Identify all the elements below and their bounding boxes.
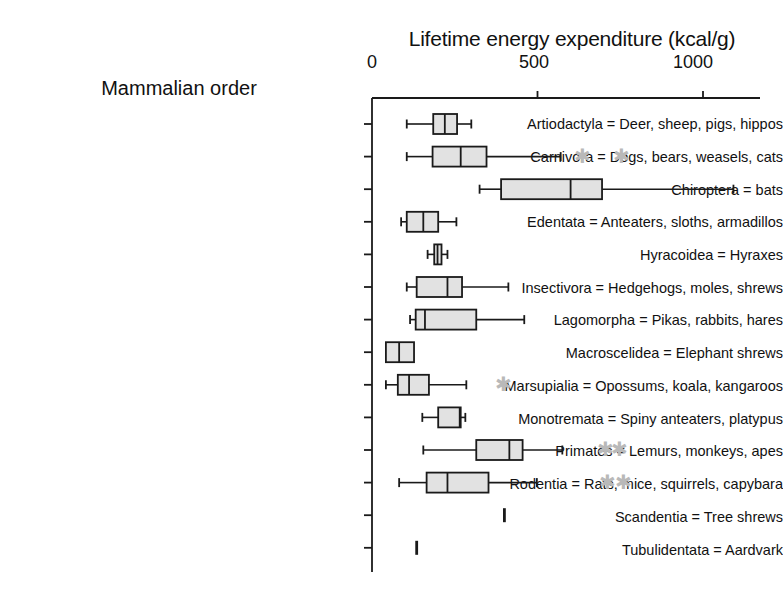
- box-iqr: [398, 375, 429, 395]
- box-plot-item: ✱✱: [399, 471, 632, 493]
- box-iqr: [501, 179, 602, 199]
- box-plot-item: ✱: [386, 373, 512, 395]
- outlier-marker: ✱: [599, 471, 616, 493]
- box-iqr: [438, 407, 461, 427]
- box-plot-item: [401, 212, 456, 232]
- box-plot-item: [407, 114, 472, 134]
- box-plot-item: [480, 179, 734, 199]
- box-iqr: [433, 147, 487, 167]
- box-plot-item: ✱✱: [423, 438, 628, 460]
- box-plot-item: [415, 541, 418, 555]
- box-plot-item: [386, 342, 414, 362]
- outlier-marker: ✱: [495, 373, 512, 395]
- box-iqr: [417, 277, 462, 297]
- box-iqr: [476, 440, 522, 460]
- box-iqr: [427, 473, 489, 493]
- box-plot-figure: Lifetime energy expenditure (kcal/g) Mam…: [0, 0, 783, 603]
- outlier-marker: ✱: [615, 471, 632, 493]
- box-plot-item: [407, 277, 509, 297]
- plot-area: ✱✱✱✱✱✱✱: [0, 0, 783, 603]
- box-plot-item: [422, 407, 465, 427]
- box-plot-item: [428, 244, 448, 264]
- box-plot-item: [503, 508, 506, 522]
- outlier-marker: ✱: [611, 438, 628, 460]
- box-plot-item: [410, 310, 524, 330]
- outlier-marker: ✱: [574, 145, 591, 167]
- box-plot-item: ✱✱: [407, 145, 631, 167]
- single-value-marker: [415, 541, 418, 555]
- single-value-marker: [503, 508, 506, 522]
- outlier-marker: ✱: [613, 145, 630, 167]
